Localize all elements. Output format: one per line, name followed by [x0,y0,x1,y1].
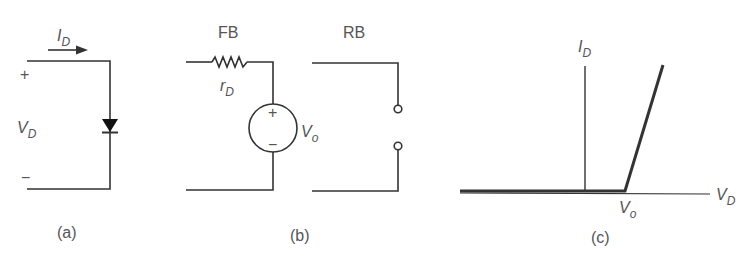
plus-sign-a: + [20,66,29,83]
y-axis-label: ID [578,38,591,60]
open-terminal-bottom [394,142,402,150]
rb-label: RB [343,24,365,41]
diode-model-figure: ID + VD − (a) FB rD + − Vo RB (b) ID VD … [0,0,755,257]
source-plus: + [268,104,277,121]
caption-c: (c) [591,229,610,246]
panel-b-forward-bias [186,57,297,190]
current-arrow-icon [76,46,88,55]
panel-b-reverse-bias [312,63,402,191]
circuit-diagrams: ID + VD − (a) FB rD + − Vo RB (b) ID VD … [0,0,755,257]
caption-a: (a) [57,224,77,241]
resistor-label: rD [220,77,234,99]
diode-circuit-wire [27,61,110,189]
minus-sign-a: − [21,169,30,186]
current-label-a: ID [57,27,70,49]
x-axis-label: VD [716,186,736,208]
iv-curve [460,65,663,191]
source-minus: − [268,136,277,153]
caption-b: (b) [290,227,310,244]
panel-c-iv-characteristic [460,65,710,194]
knee-voltage-label: Vo [619,199,637,221]
fb-label: FB [218,24,238,41]
x-axis [460,193,710,194]
resistor-icon [212,57,247,67]
open-terminal-top [394,105,402,113]
diode-symbol-icon [102,119,118,132]
panel-a-diode-circuit [27,46,118,190]
voltage-label-a: VD [17,119,37,141]
source-label: Vo [301,123,319,145]
